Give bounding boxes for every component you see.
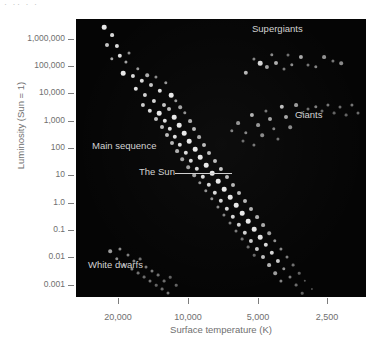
- star-point: [295, 284, 298, 287]
- star-point: [158, 89, 162, 93]
- star-point: [246, 219, 251, 224]
- x-tick-text: 10,000: [174, 312, 202, 322]
- star-point: [243, 199, 247, 203]
- star-point: [345, 114, 348, 117]
- star-point: [188, 119, 192, 123]
- x-tick-text: 20,000: [104, 312, 132, 322]
- x-axis-tick-mark: [188, 298, 189, 304]
- x-axis-tick-mark: [118, 298, 119, 304]
- star-point: [169, 93, 174, 98]
- star-point: [322, 55, 326, 59]
- star-point: [189, 159, 193, 163]
- star-point: [256, 123, 260, 127]
- annotation-main-sequence: Main sequence: [92, 140, 156, 151]
- star-point: [222, 213, 225, 216]
- annotation-the-sun: The Sun: [139, 166, 175, 177]
- star-point: [249, 239, 253, 243]
- star-point: [210, 197, 213, 200]
- annotation-supergiants: Supergiants: [252, 23, 303, 34]
- star-point: [268, 117, 272, 121]
- y-tick-text: 0.001: [44, 280, 65, 289]
- star-point: [207, 183, 211, 187]
- star-point: [164, 81, 167, 84]
- y-axis-tick-mark: [68, 285, 74, 286]
- star-point: [131, 74, 135, 78]
- star-point: [118, 54, 122, 58]
- y-tick-text: 10: [56, 170, 65, 179]
- star-point: [237, 191, 241, 195]
- star-point: [294, 103, 298, 107]
- star-point: [287, 54, 290, 57]
- clipped-top-text: · ·· · ·: [4, 0, 124, 7]
- star-point: [195, 167, 199, 171]
- star-point: [175, 284, 178, 287]
- star-point: [136, 67, 139, 70]
- star-point: [270, 251, 274, 255]
- star-point: [270, 53, 273, 56]
- star-point: [187, 139, 192, 144]
- star-point: [121, 71, 126, 76]
- y-axis-tick-label: 0.1: [0, 225, 65, 234]
- star-point: [154, 117, 158, 121]
- star-point: [252, 143, 255, 146]
- x-axis-title: Surface temperature (K): [76, 324, 366, 335]
- star-point: [154, 75, 157, 78]
- star-point: [108, 249, 112, 253]
- star-point: [213, 159, 217, 163]
- star-point: [198, 155, 203, 160]
- star-point: [213, 191, 217, 195]
- x-tick-text: 5,000: [247, 312, 270, 322]
- star-point: [167, 107, 171, 111]
- star-point: [173, 135, 177, 139]
- star-point: [225, 207, 229, 211]
- star-point: [261, 223, 265, 227]
- y-tick-text: 0.01: [48, 252, 65, 261]
- star-point: [137, 272, 140, 275]
- star-point: [110, 57, 113, 60]
- x-tick-text: 2,500: [316, 312, 339, 322]
- y-tick-text: 1,000: [44, 116, 65, 125]
- star-point: [163, 280, 166, 283]
- x-axis-tick-mark: [327, 298, 328, 304]
- star-point: [198, 181, 201, 184]
- star-point: [234, 203, 239, 208]
- star-point: [151, 270, 154, 273]
- y-axis-tick-label: 10,000: [0, 88, 65, 97]
- star-point: [288, 125, 292, 129]
- star-point: [250, 113, 254, 117]
- star-point: [235, 230, 238, 233]
- star-point: [333, 112, 336, 115]
- star-point: [155, 284, 158, 287]
- star-point: [157, 274, 160, 277]
- x-axis-tick-label: 10,000: [153, 306, 223, 324]
- star-point: [178, 105, 182, 109]
- star-point: [258, 61, 263, 66]
- star-point: [143, 93, 147, 97]
- x-axis-tick-label: 20,000: [83, 306, 153, 324]
- star-point: [174, 99, 177, 102]
- star-point: [301, 292, 304, 295]
- x-axis-tick-mark: [258, 298, 259, 304]
- star-point: [149, 280, 152, 283]
- hr-diagram-figure: · ·· · · Supergiants Giants Main sequenc…: [0, 0, 384, 344]
- star-point: [236, 121, 240, 125]
- star-point: [165, 133, 169, 137]
- star-point: [118, 247, 121, 250]
- star-point: [264, 109, 267, 112]
- star-point: [184, 151, 188, 155]
- star-point: [225, 175, 229, 179]
- star-point: [228, 195, 233, 200]
- star-point: [216, 205, 219, 208]
- star-point: [267, 263, 271, 267]
- star-point: [273, 271, 277, 275]
- star-point: [350, 103, 353, 106]
- y-axis-tick-label: 100,000: [0, 61, 65, 70]
- star-point: [311, 288, 313, 290]
- star-point: [160, 125, 164, 129]
- star-point: [145, 73, 149, 77]
- x-axis-tick-label: 5,000: [223, 306, 293, 324]
- annotation-white-dwarfs: White dwarfs: [88, 259, 143, 270]
- the-sun-leader-line: [175, 173, 232, 174]
- star-point: [105, 43, 109, 47]
- star-point: [152, 99, 156, 103]
